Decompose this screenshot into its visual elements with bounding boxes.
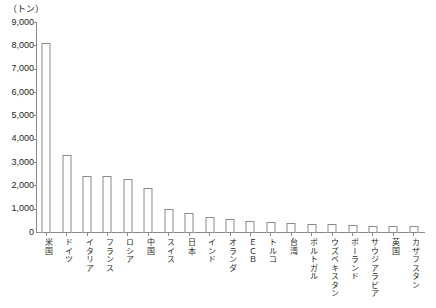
y-tick-label: 4,000 xyxy=(0,134,34,143)
bar[interactable] xyxy=(83,176,92,233)
bar-slot xyxy=(240,22,260,233)
x-tick-label: トルコ xyxy=(266,238,276,264)
x-tick-label: カザフスタン xyxy=(409,238,419,289)
bar[interactable] xyxy=(42,43,51,233)
bar-slot xyxy=(199,22,219,233)
x-tick-label: ＥＣＢ xyxy=(245,238,255,264)
x-tick-mark xyxy=(66,232,67,236)
x-tick-label: 日本 xyxy=(184,238,194,255)
x-tick-mark xyxy=(250,232,251,236)
x-tick-mark xyxy=(209,232,210,236)
x-tick-label: ポーランド xyxy=(348,238,358,281)
x-tick-mark xyxy=(107,232,108,236)
x-tick-label: イタリア xyxy=(82,238,92,272)
x-tick-label: インド xyxy=(205,238,215,264)
y-axis-unit-label: （トン） xyxy=(8,4,44,15)
bars-container xyxy=(36,22,425,233)
x-tick-mark xyxy=(413,232,414,236)
bar[interactable] xyxy=(164,209,173,233)
bar[interactable] xyxy=(205,217,214,233)
y-tick-label: 2,000 xyxy=(0,181,34,190)
y-tick-label: 8,000 xyxy=(0,41,34,50)
x-tick-label: サウジアラビア xyxy=(368,238,378,298)
x-tick-mark xyxy=(189,232,190,236)
y-tick-label: 5,000 xyxy=(0,111,34,120)
x-tick-mark xyxy=(311,232,312,236)
y-tick-label: 7,000 xyxy=(0,64,34,73)
x-tick-mark xyxy=(291,232,292,236)
x-tick-mark xyxy=(393,232,394,236)
bar-slot xyxy=(36,22,56,233)
x-tick-label: ウズベキスタン xyxy=(327,238,337,298)
x-tick-mark xyxy=(230,232,231,236)
bar-slot xyxy=(159,22,179,233)
x-tick-label: 米国 xyxy=(41,238,51,255)
x-tick-label: スイス xyxy=(164,238,174,264)
x-tick-mark xyxy=(332,232,333,236)
bar-slot xyxy=(301,22,321,233)
bar-slot xyxy=(118,22,138,233)
bar[interactable] xyxy=(123,179,132,233)
bar-slot xyxy=(322,22,342,233)
bar[interactable] xyxy=(185,213,194,233)
bar-chart: （トン） 9,0008,0007,0006,0005,0004,0003,000… xyxy=(0,0,436,308)
x-tick-mark xyxy=(87,232,88,236)
y-tick-label: 0 xyxy=(0,228,34,237)
x-tick-mark xyxy=(270,232,271,236)
x-tick-mark xyxy=(372,232,373,236)
x-tick-mark xyxy=(168,232,169,236)
bar-slot xyxy=(383,22,403,233)
x-tick-label: 中国 xyxy=(143,238,153,255)
bar[interactable] xyxy=(225,219,234,233)
x-tick-mark xyxy=(352,232,353,236)
x-tick-label: ドイツ xyxy=(62,238,72,264)
bar-slot xyxy=(77,22,97,233)
x-tick-label: ロシア xyxy=(123,238,133,264)
bar[interactable] xyxy=(103,176,112,233)
bar-slot xyxy=(56,22,76,233)
x-tick-label: 英国 xyxy=(388,238,398,255)
x-tick-label: ポルトガル xyxy=(307,238,317,281)
x-tick-label: フランス xyxy=(102,238,112,272)
bar-slot xyxy=(138,22,158,233)
x-tick-label: オランダ xyxy=(225,238,235,272)
y-tick-label: 3,000 xyxy=(0,158,34,167)
bar-slot xyxy=(220,22,240,233)
bar-slot xyxy=(261,22,281,233)
x-tick-mark xyxy=(148,232,149,236)
x-tick-mark xyxy=(46,232,47,236)
bar[interactable] xyxy=(62,155,71,233)
bar-slot xyxy=(179,22,199,233)
bar[interactable] xyxy=(144,188,153,234)
bar-slot xyxy=(363,22,383,233)
y-tick-label: 9,000 xyxy=(0,18,34,27)
y-tick-label: 6,000 xyxy=(0,88,34,97)
x-tick-label: 台湾 xyxy=(286,238,296,255)
x-tick-mark xyxy=(127,232,128,236)
bar-slot xyxy=(97,22,117,233)
bar-slot xyxy=(404,22,424,233)
bar-slot xyxy=(342,22,362,233)
y-tick-label: 1,000 xyxy=(0,204,34,213)
bar-slot xyxy=(281,22,301,233)
